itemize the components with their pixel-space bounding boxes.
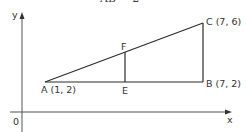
point-e-label: E <box>122 86 128 96</box>
y-axis-label: y <box>12 10 18 20</box>
point-c-label: C (7, 6) <box>206 17 241 27</box>
y-axis-arrow-icon <box>20 12 25 19</box>
x-axis-label: x <box>227 115 233 125</box>
point-b-label: B (7, 2) <box>206 79 241 89</box>
point-a-label: A (1, 2) <box>41 85 76 95</box>
segment-ac <box>45 23 203 82</box>
origin-label: 0 <box>13 117 19 127</box>
point-f-label: F <box>121 42 126 52</box>
coordinate-diagram: AB = 2 y 0 x A (1, 2) B (7, 2) C (7, 6) … <box>0 0 246 132</box>
